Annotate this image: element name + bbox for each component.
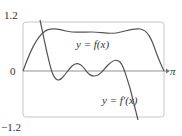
plot-frame [23,22,164,117]
y-min-label: −1.2 [1,121,21,133]
f-curve-label: y = f(x) [75,38,109,51]
origin-label: 0 [10,65,16,77]
chart: 1.2 −1.2 0 π y = f(x) y = f′(x) [0,0,182,136]
fprime-curve-label: y = f′(x) [101,94,138,107]
y-max-label: 1.2 [4,9,18,21]
x-max-label: π [170,65,176,77]
